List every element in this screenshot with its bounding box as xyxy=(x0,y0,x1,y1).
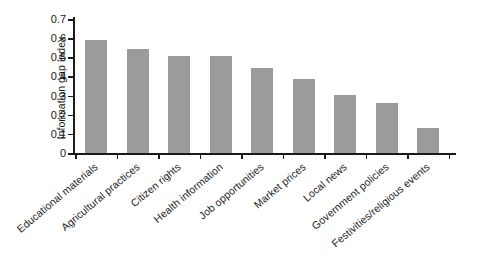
x-tick-mark xyxy=(200,153,202,159)
bar xyxy=(376,103,398,153)
y-tick-mark xyxy=(68,19,73,21)
y-tick-label: 0.5 xyxy=(51,51,66,63)
y-tick-mark xyxy=(68,38,73,40)
y-tick-mark xyxy=(68,57,73,59)
y-tick-mark xyxy=(68,134,73,136)
bar xyxy=(293,79,315,153)
x-tick-mark xyxy=(283,153,285,159)
x-tick-mark xyxy=(158,153,160,159)
x-tick-mark xyxy=(324,153,326,159)
y-tick-label: 0.7 xyxy=(51,13,66,25)
bar xyxy=(251,68,273,153)
y-tick-label: 0.3 xyxy=(51,90,66,102)
bar xyxy=(85,40,107,153)
x-tick-mark xyxy=(449,153,451,159)
bar xyxy=(417,128,439,153)
bar xyxy=(127,49,149,153)
y-tick-label: 0.1 xyxy=(51,128,66,140)
x-tick-mark xyxy=(75,153,77,159)
y-tick-mark xyxy=(68,115,73,117)
y-tick-mark xyxy=(68,76,73,78)
y-tick-label: 0 xyxy=(60,147,66,159)
plot-area: 00.10.20.30.40.50.60.7 xyxy=(73,19,455,153)
x-tick-mark xyxy=(117,153,119,159)
y-tick-label: 0.4 xyxy=(51,70,66,82)
bar xyxy=(210,56,232,153)
bar xyxy=(334,95,356,153)
y-tick-label: 0.2 xyxy=(51,109,66,121)
y-tick-mark xyxy=(68,153,73,155)
y-tick-mark xyxy=(68,96,73,98)
bar-chart: Information gap index 00.10.20.30.40.50.… xyxy=(0,0,486,279)
bar xyxy=(168,56,190,153)
x-tick-mark xyxy=(241,153,243,159)
x-tick-mark xyxy=(366,153,368,159)
y-tick-label: 0.6 xyxy=(51,32,66,44)
x-tick-mark xyxy=(407,153,409,159)
x-axis-line xyxy=(73,153,456,155)
